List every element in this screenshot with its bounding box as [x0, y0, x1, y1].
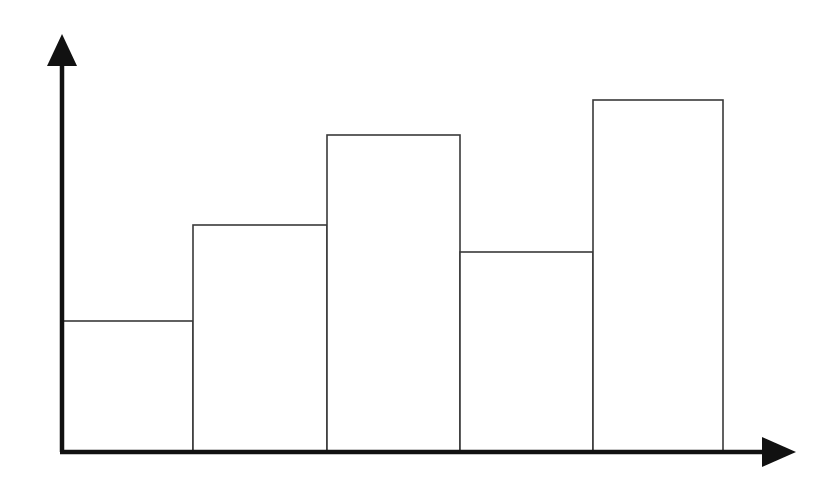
bar-chart-figure — [0, 0, 840, 481]
bar-2 — [193, 225, 327, 452]
chart-canvas — [0, 0, 840, 481]
bar-1 — [62, 321, 193, 452]
bar-3 — [327, 135, 460, 452]
bar-4 — [460, 252, 593, 452]
bar-5 — [593, 100, 723, 452]
